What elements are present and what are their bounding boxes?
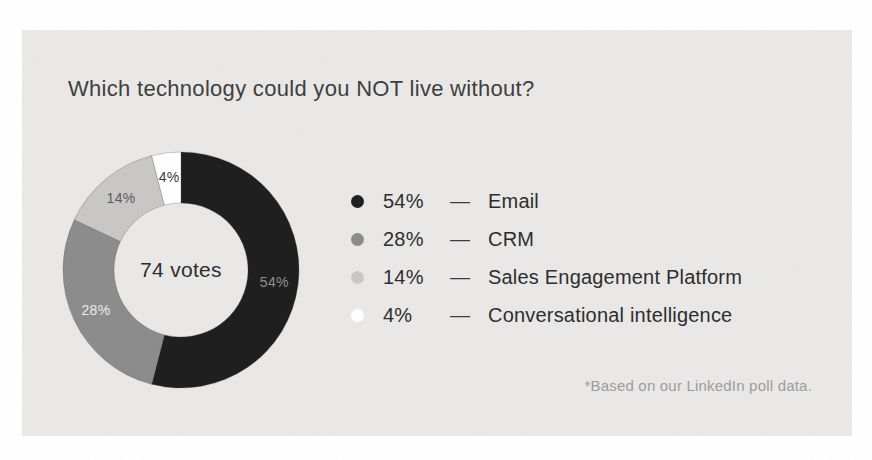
- legend-separator: —: [450, 228, 488, 251]
- legend-label: Sales Engagement Platform: [488, 266, 742, 289]
- donut-slice-crm: [63, 220, 164, 385]
- page-title: Which technology could you NOT live with…: [68, 76, 534, 102]
- legend-label: CRM: [488, 228, 534, 251]
- legend-dot-icon: [351, 195, 364, 208]
- legend-percent: 4%: [383, 304, 450, 327]
- legend-item-email: 54% — Email: [351, 189, 742, 213]
- legend-label: Email: [488, 190, 539, 213]
- legend-item-crm: 28% — CRM: [351, 227, 742, 251]
- donut-slice-percent-label: 28%: [81, 302, 110, 318]
- donut-chart-svg: 54%28%14%4%: [59, 148, 303, 392]
- chart-legend: 54% — Email 28% — CRM 14% — Sales Engage…: [351, 189, 742, 341]
- legend-separator: —: [450, 190, 488, 213]
- footnote: *Based on our LinkedIn poll data.: [584, 377, 812, 394]
- poll-card: Which technology could you NOT live with…: [22, 30, 852, 436]
- legend-separator: —: [450, 304, 488, 327]
- poll-slide: Which technology could you NOT live with…: [0, 0, 872, 460]
- donut-slice-percent-label: 54%: [260, 274, 289, 290]
- donut-slice-percent-label: 4%: [159, 169, 180, 185]
- donut-slice-percent-label: 14%: [107, 190, 136, 206]
- legend-percent: 54%: [383, 190, 450, 213]
- legend-item-sales-engagement-platform: 14% — Sales Engagement Platform: [351, 265, 742, 289]
- legend-label: Conversational intelligence: [488, 304, 732, 327]
- legend-dot-icon: [351, 309, 364, 322]
- legend-percent: 14%: [383, 266, 450, 289]
- legend-percent: 28%: [383, 228, 450, 251]
- legend-item-conversational-intelligence: 4% — Conversational intelligence: [351, 303, 742, 327]
- legend-separator: —: [450, 266, 488, 289]
- donut-chart: 54%28%14%4% 74 votes: [59, 148, 303, 392]
- legend-dot-icon: [351, 233, 364, 246]
- legend-dot-icon: [351, 271, 364, 284]
